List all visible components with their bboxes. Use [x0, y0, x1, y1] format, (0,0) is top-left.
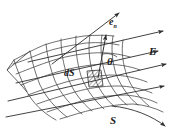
electric-flux-figure: en E θ dS S: [0, 0, 177, 136]
surface-label: S: [110, 115, 116, 126]
normal-vector-subscript: n: [113, 23, 116, 29]
area-element-label: dS: [64, 68, 75, 78]
figure-canvas: [0, 0, 177, 136]
electric-field-label: E: [149, 46, 156, 57]
angle-label: θ: [107, 56, 113, 67]
normal-unit-vector-label: en: [109, 17, 117, 29]
hatched-area-element-ds: [87, 70, 103, 87]
